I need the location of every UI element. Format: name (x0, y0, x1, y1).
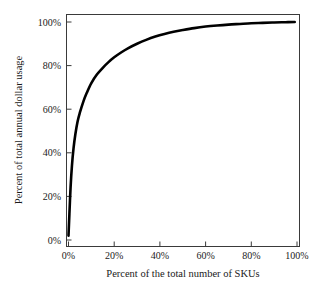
x-tick-label: 60% (196, 250, 214, 261)
x-tick-label: 80% (242, 250, 260, 261)
y-axis-title: Percent of total annual dollar usage (13, 55, 24, 204)
x-axis-title: Percent of the total number of SKUs (106, 268, 259, 279)
y-tick-label: 0% (48, 235, 61, 246)
x-tick-label: 40% (151, 250, 169, 261)
chart-canvas: 0%20%40%60%80%100% 0%20%40%60%80%100% Pe… (0, 0, 318, 293)
y-tick-label: 60% (43, 104, 61, 115)
y-tick-label: 100% (38, 17, 61, 28)
x-tick-label: 0% (62, 250, 75, 261)
pareto-chart: 0%20%40%60%80%100% 0%20%40%60%80%100% Pe… (0, 0, 318, 293)
y-tick-label: 20% (43, 191, 61, 202)
y-tick-label: 80% (43, 60, 61, 71)
y-tick-label: 40% (43, 147, 61, 158)
x-tick-label: 20% (105, 250, 123, 261)
x-tick-label: 100% (285, 250, 308, 261)
